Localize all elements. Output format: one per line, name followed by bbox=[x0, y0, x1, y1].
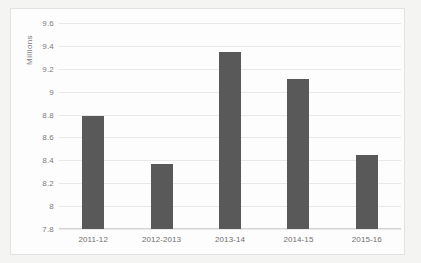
x-axis-tick-label: 2012-2013 bbox=[127, 235, 195, 244]
y-axis-tick-label: 8.6 bbox=[42, 133, 54, 142]
y-axis-tick-label: 8.4 bbox=[42, 156, 54, 165]
bar-slot bbox=[264, 23, 332, 229]
bar[interactable] bbox=[287, 79, 309, 229]
bar[interactable] bbox=[356, 155, 378, 229]
y-axis-tick-label: 9.6 bbox=[42, 19, 54, 28]
y-axis-tick-label: 9 bbox=[49, 87, 54, 96]
bar-slot bbox=[127, 23, 195, 229]
y-axis-tick-label: 9.4 bbox=[42, 41, 54, 50]
bar[interactable] bbox=[151, 164, 173, 229]
x-axis-tick-label: 2014-15 bbox=[264, 235, 332, 244]
bar-slot bbox=[196, 23, 264, 229]
bar-series bbox=[59, 23, 401, 229]
chart-frame: Millions 7.888.28.48.68.899.29.49.6 2011… bbox=[10, 8, 405, 255]
y-axis-title: Millions bbox=[25, 35, 34, 65]
y-axis-tick-label: 8 bbox=[49, 202, 54, 211]
x-axis-tick-labels: 2011-122012-20132013-142014-152015-16 bbox=[59, 235, 401, 244]
x-axis-tick-label: 2011-12 bbox=[59, 235, 127, 244]
bar-slot bbox=[59, 23, 127, 229]
gridline bbox=[59, 229, 401, 230]
bar-slot bbox=[333, 23, 401, 229]
y-axis-tick-label: 7.8 bbox=[42, 225, 54, 234]
y-axis-tick-label: 9.2 bbox=[42, 64, 54, 73]
x-axis-tick-label: 2015-16 bbox=[333, 235, 401, 244]
y-axis-tick-label: 8.8 bbox=[42, 110, 54, 119]
plot-area: 7.888.28.48.68.899.29.49.6 bbox=[59, 23, 401, 229]
bar[interactable] bbox=[219, 52, 241, 229]
bar[interactable] bbox=[82, 116, 104, 229]
y-axis-tick-label: 8.2 bbox=[42, 179, 54, 188]
x-axis-tick-label: 2013-14 bbox=[196, 235, 264, 244]
